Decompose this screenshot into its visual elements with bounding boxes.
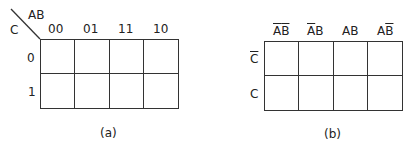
cell xyxy=(334,76,368,110)
col-label-abar-bbar: AB xyxy=(273,25,289,37)
col-label-01: 01 xyxy=(83,23,98,35)
cell xyxy=(75,40,109,74)
row-label-1: 1 xyxy=(28,86,36,98)
col-label-a-bbar: AB xyxy=(377,25,393,37)
row-label-cbar: C xyxy=(250,53,258,65)
cell xyxy=(144,74,178,108)
col-label-abar-b: AB xyxy=(307,25,323,37)
cell xyxy=(110,40,144,74)
row-label-c: C xyxy=(250,88,258,100)
cell xyxy=(265,42,299,76)
col-label-10: 10 xyxy=(153,23,168,35)
cell xyxy=(368,42,402,76)
corner-col-var: AB xyxy=(28,9,44,21)
cell xyxy=(41,40,75,74)
corner-row-var: C xyxy=(10,24,18,36)
cell xyxy=(368,76,402,110)
col-label-11: 11 xyxy=(118,23,133,35)
cell xyxy=(110,74,144,108)
cell xyxy=(41,74,75,108)
cell xyxy=(144,40,178,74)
col-label-a-b: AB xyxy=(342,25,358,37)
map-b-grid xyxy=(264,41,403,111)
col-label-00: 00 xyxy=(48,23,63,35)
cell xyxy=(334,42,368,76)
cell xyxy=(265,76,299,110)
cell xyxy=(299,76,333,110)
cell xyxy=(75,74,109,108)
map-a-grid xyxy=(40,39,179,109)
row-label-0: 0 xyxy=(27,52,35,64)
cell xyxy=(299,42,333,76)
caption-a: (a) xyxy=(100,126,117,140)
caption-b: (b) xyxy=(324,127,341,141)
